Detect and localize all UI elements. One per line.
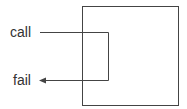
diagram-canvas: call fail xyxy=(0,0,187,109)
fail-label: fail xyxy=(13,72,31,88)
call-fail-path xyxy=(40,33,109,81)
outer-box xyxy=(83,7,179,106)
call-label: call xyxy=(10,24,31,40)
arrowhead-icon xyxy=(39,78,46,84)
